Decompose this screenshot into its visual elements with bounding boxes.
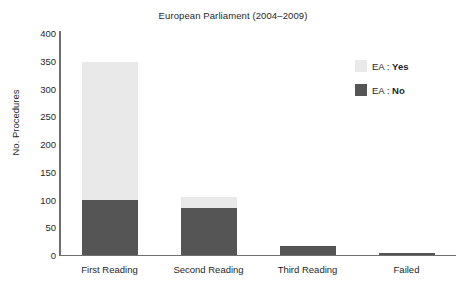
y-tick-label: 250 <box>10 111 56 122</box>
legend-label-prefix: EA : <box>372 61 392 72</box>
bar-segment-ea-no[interactable] <box>181 208 237 255</box>
y-tick-label: 50 <box>10 222 56 233</box>
y-tick-label: 150 <box>10 166 56 177</box>
legend-item[interactable]: EA : Yes <box>355 56 460 76</box>
bar-segment-ea-no[interactable] <box>379 253 435 255</box>
chart-figure: European Parliament (2004–2009) No. Proc… <box>0 0 466 294</box>
legend-label-prefix: EA : <box>372 85 392 96</box>
legend-swatch-icon <box>355 60 367 72</box>
bar-group[interactable] <box>181 197 237 255</box>
legend-label: EA : No <box>372 85 405 96</box>
bar-group[interactable] <box>280 246 336 255</box>
x-tick-label-third-reading: Third Reading <box>278 264 338 275</box>
bar-group[interactable] <box>82 62 138 255</box>
bar-segment-ea-no[interactable] <box>280 246 336 255</box>
y-tick-label: 400 <box>10 28 56 39</box>
y-tick-label: 350 <box>10 55 56 66</box>
legend-swatch-icon <box>355 84 367 96</box>
y-axis-tick-labels: 050100150200250300350400 <box>0 0 56 294</box>
y-tick-label: 0 <box>10 250 56 261</box>
legend-label-value: Yes <box>392 61 408 72</box>
chart-legend: EA : YesEA : No <box>355 56 460 104</box>
y-tick-label: 100 <box>10 194 56 205</box>
legend-label-value: No <box>392 85 405 96</box>
bar-segment-ea-no[interactable] <box>82 200 138 256</box>
y-tick-label: 300 <box>10 83 56 94</box>
legend-item[interactable]: EA : No <box>355 80 460 100</box>
legend-label: EA : Yes <box>372 61 408 72</box>
chart-title: European Parliament (2004–2009) <box>0 10 466 21</box>
bar-group[interactable] <box>379 253 435 255</box>
bar-segment-ea-yes[interactable] <box>181 197 237 209</box>
bar-segment-ea-yes[interactable] <box>82 62 138 200</box>
y-tick-label: 200 <box>10 139 56 150</box>
x-tick-label-first-reading: First Reading <box>81 264 138 275</box>
x-tick-label-second-reading: Second Reading <box>173 264 243 275</box>
x-tick-label-failed: Failed <box>394 264 420 275</box>
